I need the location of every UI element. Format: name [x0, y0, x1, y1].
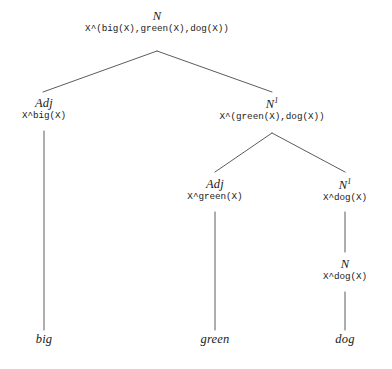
leaf-dog: dog — [335, 333, 354, 346]
node-n1-top-superscript: 1 — [274, 96, 278, 105]
leaf-green-label: green — [201, 333, 230, 346]
leaf-big-label: big — [36, 333, 53, 346]
node-adj-big-category: Adj — [22, 97, 66, 110]
node-n-dog: N X^dog(X) — [323, 258, 367, 282]
node-n1-dog-superscript: 1 — [347, 177, 351, 186]
node-n1-dog: N1 X^dog(X) — [323, 178, 367, 203]
node-adj-big-semantics: X^big(X) — [22, 111, 66, 121]
node-n1-dog-semantics: X^dog(X) — [323, 193, 367, 203]
node-adj-green-category: Adj — [187, 178, 242, 191]
node-n-dog-semantics: X^dog(X) — [323, 272, 367, 282]
node-adj-green-semantics: X^green(X) — [187, 192, 242, 202]
node-n1-top-category: N1 — [219, 97, 324, 111]
edge-root-to-n1-top — [157, 51, 272, 92]
node-n-dog-category: N — [323, 258, 367, 271]
leaf-dog-label: dog — [335, 333, 354, 346]
node-n1-top-semantics: X^(green(X),dog(X)) — [219, 112, 324, 122]
edge-root-to-adj-big — [43, 51, 157, 92]
node-n1-top: N1 X^(green(X),dog(X)) — [219, 97, 324, 122]
leaf-big: big — [36, 333, 53, 346]
node-root: N X^(big(X),green(X),dog(X)) — [85, 10, 229, 34]
edge-n1-to-adj-green — [215, 133, 272, 172]
node-adj-green: Adj X^green(X) — [187, 178, 242, 202]
node-root-semantics: X^(big(X),green(X),dog(X)) — [85, 24, 229, 34]
node-adj-big: Adj X^big(X) — [22, 97, 66, 121]
node-root-category: N — [85, 10, 229, 23]
edge-n1-to-n1-dog — [272, 133, 345, 172]
syntax-tree-diagram: N X^(big(X),green(X),dog(X)) Adj X^big(X… — [0, 0, 392, 369]
leaf-green: green — [201, 333, 230, 346]
node-n1-dog-category: N1 — [323, 178, 367, 192]
